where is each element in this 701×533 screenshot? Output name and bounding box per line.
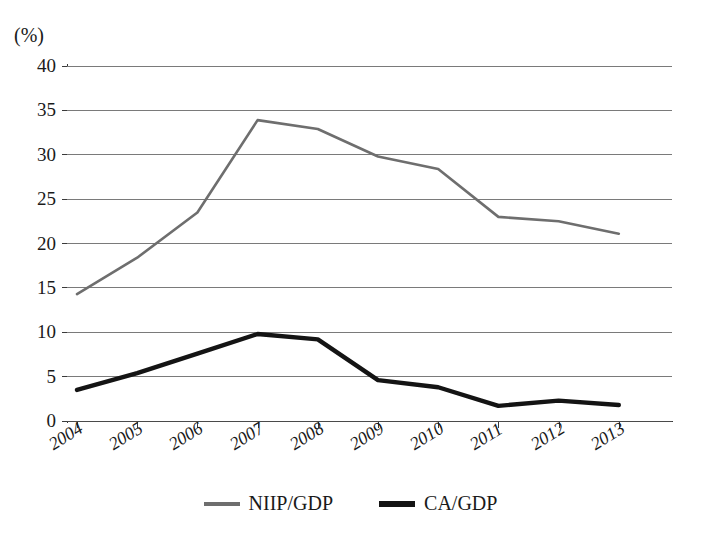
legend-label-niip-gdp: NIIP/GDP xyxy=(249,492,333,515)
legend-item-ca-gdp[interactable]: CA/GDP xyxy=(379,492,497,515)
y-tick-label-35: 35 xyxy=(16,100,56,119)
x-tick-label-2012: 2012 xyxy=(527,418,569,455)
series-lines xyxy=(67,66,672,421)
x-tick-label-2005: 2005 xyxy=(105,418,147,455)
y-tick-label-40: 40 xyxy=(16,56,56,75)
y-tick-label-25: 25 xyxy=(16,189,56,208)
legend-item-niip-gdp[interactable]: NIIP/GDP xyxy=(204,492,333,515)
y-tick-label-10: 10 xyxy=(16,322,56,341)
y-axis-unit-label: (%) xyxy=(14,24,44,47)
legend-label-ca-gdp: CA/GDP xyxy=(424,492,497,515)
series-line-ca-gdp xyxy=(77,334,619,406)
plot-area xyxy=(67,66,672,421)
y-tick-label-15: 15 xyxy=(16,278,56,297)
x-tick-label-2008: 2008 xyxy=(286,418,328,455)
y-tick-label-30: 30 xyxy=(16,145,56,164)
chart-legend: NIIP/GDP CA/GDP xyxy=(0,492,701,515)
y-tick-label-20: 20 xyxy=(16,234,56,253)
x-tick-label-2006: 2006 xyxy=(165,418,207,455)
gray-line-swatch xyxy=(204,502,240,506)
x-tick-label-2011: 2011 xyxy=(466,419,507,455)
x-tick-label-2010: 2010 xyxy=(406,418,448,455)
x-tick-label-2013: 2013 xyxy=(587,418,629,455)
x-tick-label-2007: 2007 xyxy=(226,418,268,455)
line-chart: (%) 0510152025303540 2004200520062007200… xyxy=(0,0,701,533)
y-tick-label-0: 0 xyxy=(16,411,56,430)
black-line-swatch xyxy=(379,501,415,507)
series-line-niip-gdp xyxy=(77,120,619,294)
y-tick-label-5: 5 xyxy=(16,367,56,386)
x-tick-label-2009: 2009 xyxy=(346,418,388,455)
